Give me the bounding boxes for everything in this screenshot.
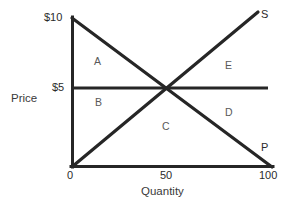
supply-demand-chart: $10 $5 Price 0 50 100 Quantity S P A B C… [0, 0, 292, 209]
y-tick-label-10: $10 [44, 12, 62, 23]
chart-canvas [0, 0, 292, 209]
x-tick-label-0: 0 [67, 170, 73, 181]
x-tick-label-100: 100 [259, 170, 277, 181]
demand-curve-label: P [261, 142, 268, 153]
region-label-b: B [95, 97, 102, 108]
region-label-d: D [225, 107, 233, 118]
x-tick-label-50: 50 [160, 170, 172, 181]
region-label-e: E [225, 60, 232, 71]
supply-curve-label: S [261, 9, 268, 20]
y-tick-label-5: $5 [52, 82, 64, 93]
region-label-a: A [94, 56, 101, 67]
region-label-c: C [162, 121, 170, 132]
demand-curve-line [72, 18, 272, 167]
y-axis-title: Price [11, 93, 37, 105]
x-axis-title: Quantity [141, 186, 184, 198]
